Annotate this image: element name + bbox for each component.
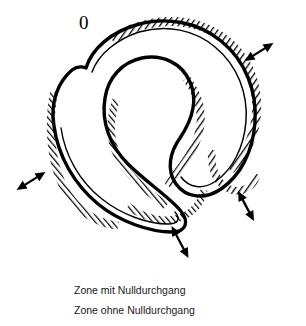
arrow-left [14, 168, 48, 194]
hatch-band-outer-left [51, 92, 118, 226]
hatch-band-outer-top-right [112, 22, 257, 170]
legend-label-zone-with-zero-crossing: Zone mit Nulldurchgang [74, 284, 185, 296]
legend-arrow-marker [27, 285, 69, 295]
legend-zero-marker: 0 [40, 301, 49, 321]
zero-crossing-zone-diagram: 0 [0, 0, 306, 326]
figure-container: 0 [0, 0, 306, 326]
legend-label-zone-without-zero-crossing: Zone ohne Nulldurchgang [74, 304, 195, 316]
zero-region-label: 0 [79, 12, 89, 33]
